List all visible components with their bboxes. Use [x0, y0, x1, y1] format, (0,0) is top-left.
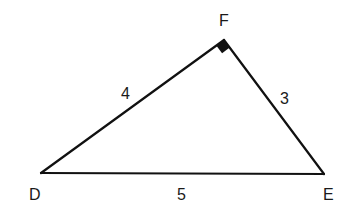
side-label-de: 5 [177, 186, 186, 203]
side-de [41, 173, 324, 174]
side-label-fe: 3 [280, 90, 289, 107]
side-label-df: 4 [121, 85, 130, 102]
vertex-label-e: E [323, 186, 334, 203]
vertex-label-f: F [219, 12, 229, 29]
vertex-label-d: D [29, 186, 41, 203]
triangle-diagram: F D E 4 3 5 [0, 0, 350, 207]
side-fe [224, 40, 324, 174]
side-df [41, 40, 224, 173]
right-angle-marker-icon [216, 40, 229, 53]
